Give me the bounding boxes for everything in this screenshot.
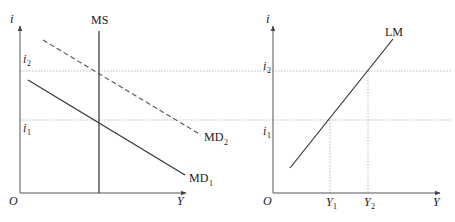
- md2-curve: [43, 40, 201, 135]
- y-axis-label: i: [266, 11, 270, 26]
- y1-subscript: 1: [333, 202, 337, 211]
- y2-subscript: 2: [371, 202, 375, 211]
- i2-subscript: 2: [27, 59, 31, 68]
- origin-label: O: [9, 194, 18, 208]
- md1-subscript: 1: [209, 179, 213, 188]
- i2-label: i: [23, 52, 26, 66]
- y-axis-label: i: [10, 11, 14, 26]
- md2-label: MD: [204, 130, 224, 144]
- lm-label: LM: [385, 25, 403, 39]
- i1-subscript: 1: [267, 131, 271, 140]
- left-panel-money-market: i O Y i 2 i 1 MS MD 2 MD 1: [9, 11, 230, 208]
- md2-subscript: 2: [224, 138, 228, 147]
- x-axis-label: Y: [433, 195, 441, 209]
- i1-label: i: [23, 121, 26, 135]
- money-market-lm-diagram: i O Y i 2 i 1 MS MD 2 MD 1 i O Y i 2 i 1…: [0, 0, 455, 222]
- i1-subscript: 1: [27, 128, 31, 137]
- x-axis-label: Y: [177, 194, 185, 208]
- md1-label: MD: [189, 171, 209, 185]
- lm-curve: [290, 39, 393, 168]
- i2-label: i: [263, 59, 266, 73]
- ms-label: MS: [91, 13, 108, 27]
- i2-subscript: 2: [267, 66, 271, 75]
- md1-curve: [28, 80, 185, 175]
- origin-label: O: [263, 194, 272, 208]
- right-panel-lm-curve: i O Y i 2 i 1 LM Y 1 Y 2: [230, 11, 452, 211]
- i1-label: i: [263, 124, 266, 138]
